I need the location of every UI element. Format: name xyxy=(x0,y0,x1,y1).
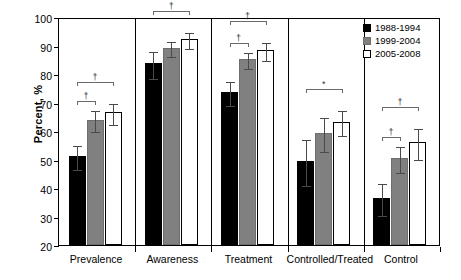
significance-bracket-tick xyxy=(266,21,267,25)
x-axis-tick xyxy=(211,247,212,252)
legend-item: 1999-2004 xyxy=(363,34,420,47)
significance-symbol: † xyxy=(153,2,189,11)
legend-label: 1999-2004 xyxy=(375,34,420,47)
significance-symbol: † xyxy=(382,128,400,137)
bar-2 xyxy=(257,50,274,245)
error-cap-top xyxy=(91,111,100,112)
x-group-divider xyxy=(288,19,289,247)
significance-bracket-tick xyxy=(382,107,383,111)
significance-bracket xyxy=(77,82,113,83)
legend-swatch-icon xyxy=(363,50,371,58)
y-tick-label: 20 xyxy=(26,239,52,255)
error-cap-bottom xyxy=(378,216,387,217)
error-cap-bottom xyxy=(91,132,100,133)
y-tick-label: 40 xyxy=(26,182,52,198)
significance-bracket-tick xyxy=(95,101,96,105)
error-cap-top xyxy=(149,52,158,53)
error-cap-bottom xyxy=(73,170,82,171)
y-tick-mark xyxy=(54,132,59,133)
x-axis-label: Control xyxy=(363,253,439,265)
significance-bracket xyxy=(230,43,248,44)
error-bar xyxy=(418,129,419,160)
y-tick-label: 30 xyxy=(26,211,52,227)
y-tick-mark xyxy=(54,75,59,76)
bar-0 xyxy=(221,92,238,245)
error-cap-bottom xyxy=(109,125,118,126)
error-bar xyxy=(248,53,249,69)
bar-1 xyxy=(87,120,104,245)
significance-bracket-tick xyxy=(230,43,231,47)
y-tick-mark xyxy=(54,104,59,105)
error-cap-bottom xyxy=(396,173,405,174)
error-bar xyxy=(382,184,383,215)
bar-0 xyxy=(145,63,162,245)
error-cap-top xyxy=(226,82,235,83)
error-bar xyxy=(342,111,343,136)
significance-bracket xyxy=(77,101,95,102)
y-tick-label: 70 xyxy=(26,97,52,113)
significance-symbol: † xyxy=(382,98,418,107)
bar-2 xyxy=(333,122,350,245)
y-tick-label: 80 xyxy=(26,68,52,84)
error-cap-top xyxy=(378,184,387,185)
legend-item: 1988-1994 xyxy=(363,21,420,34)
error-cap-top xyxy=(302,140,311,141)
error-cap-bottom xyxy=(226,106,235,107)
significance-symbol: † xyxy=(230,34,248,43)
significance-bracket-tick xyxy=(382,137,383,141)
x-axis-label: Controlled/Treated xyxy=(287,253,363,265)
significance-symbol: † xyxy=(77,73,113,82)
significance-bracket-tick xyxy=(400,137,401,141)
error-bar xyxy=(230,82,231,107)
error-cap-bottom xyxy=(338,136,347,137)
significance-symbol: † xyxy=(230,12,266,21)
y-tick-mark xyxy=(54,161,59,162)
error-cap-top xyxy=(109,104,118,105)
error-bar xyxy=(113,104,114,125)
error-bar xyxy=(400,147,401,173)
significance-bracket-tick xyxy=(189,11,190,15)
error-cap-top xyxy=(396,147,405,148)
error-cap-bottom xyxy=(185,49,194,50)
x-group-divider xyxy=(135,19,136,247)
bar-2 xyxy=(181,39,198,245)
y-tick-label: 60 xyxy=(26,125,52,141)
x-axis-label: Treatment xyxy=(210,253,286,265)
error-cap-bottom xyxy=(414,160,423,161)
significance-bracket-tick xyxy=(248,43,249,47)
significance-bracket xyxy=(382,137,400,138)
legend-swatch-icon xyxy=(363,24,371,32)
error-bar xyxy=(306,140,307,187)
y-tick-mark xyxy=(54,18,59,19)
significance-symbol: * xyxy=(306,80,342,89)
y-tick-label: 50 xyxy=(26,154,52,170)
error-bar xyxy=(171,42,172,57)
bar-2 xyxy=(105,112,122,245)
bar-1 xyxy=(239,59,256,245)
plot-right-border xyxy=(439,18,440,246)
legend-item: 2005-2008 xyxy=(363,47,420,60)
y-tick-mark xyxy=(54,47,59,48)
error-cap-top xyxy=(414,129,423,130)
error-bar xyxy=(95,111,96,133)
error-cap-top xyxy=(73,146,82,147)
error-bar xyxy=(266,43,267,61)
error-bar xyxy=(324,118,325,152)
x-group-divider xyxy=(211,19,212,247)
y-tick-mark xyxy=(54,218,59,219)
error-cap-bottom xyxy=(262,61,271,62)
legend-label: 1988-1994 xyxy=(375,21,420,34)
significance-bracket-tick xyxy=(342,89,343,93)
significance-bracket xyxy=(153,11,189,12)
x-axis-tick xyxy=(135,247,136,252)
error-cap-bottom xyxy=(167,57,176,58)
error-bar xyxy=(77,146,78,170)
error-cap-bottom xyxy=(302,186,311,187)
significance-bracket xyxy=(306,89,342,90)
error-bar xyxy=(189,33,190,49)
significance-bracket xyxy=(382,107,418,108)
legend-swatch-icon xyxy=(363,37,371,45)
error-cap-top xyxy=(185,33,194,34)
y-tick-label: 100 xyxy=(26,11,52,27)
error-cap-top xyxy=(244,53,253,54)
